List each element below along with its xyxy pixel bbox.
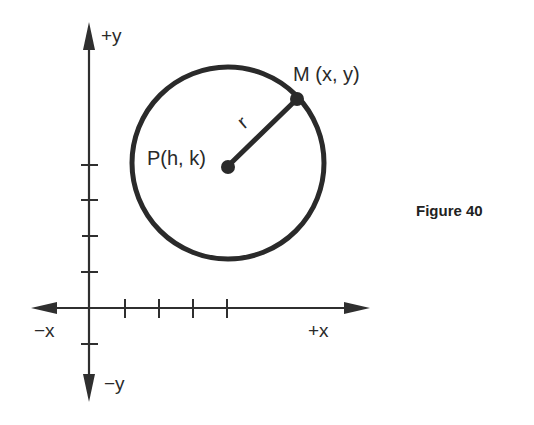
- radius-segment: [228, 99, 297, 166]
- y-axis-down-arrow-icon: [83, 374, 95, 402]
- circle-diagram-figure: +y −y −x +x P(h, k) M (x, y) r Figure 40: [0, 0, 534, 425]
- x-axis-right-arrow-icon: [344, 302, 370, 314]
- y-axis: [81, 22, 98, 402]
- y-positive-label: +y: [101, 26, 122, 45]
- figure-caption: Figure 40: [416, 203, 483, 218]
- center-point-P: [221, 160, 235, 174]
- x-axis: [31, 299, 370, 318]
- point-M-label: M (x, y): [293, 64, 360, 84]
- y-axis-up-arrow-icon: [83, 22, 95, 50]
- x-axis-left-arrow-icon: [31, 302, 57, 314]
- x-positive-label: +x: [308, 321, 329, 340]
- y-negative-label: −y: [104, 374, 125, 393]
- center-point-label: P(h, k): [147, 148, 206, 168]
- point-M: [290, 92, 304, 106]
- x-negative-label: −x: [34, 321, 55, 340]
